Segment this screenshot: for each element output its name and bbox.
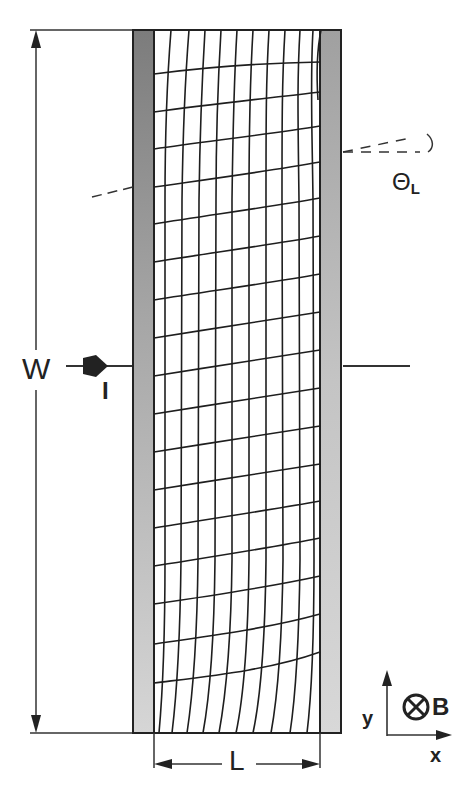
axis-y-label: y [362,708,373,728]
field-into-page-icon [404,695,428,719]
hall-bar-diagram [0,0,474,796]
hall-angle-symbol: Θ [392,168,411,195]
hall-angle-label: ΘL [392,170,420,196]
left-contact [133,30,154,733]
current-arrow-icon [83,355,108,377]
axis-x-label: x [430,745,441,765]
current-label: I [102,379,109,403]
right-contact [320,30,341,733]
width-label: W [22,354,50,384]
hall-angle-subscript: L [411,180,420,197]
length-label: L [229,747,245,775]
magnetic-field-label: B [432,695,449,719]
